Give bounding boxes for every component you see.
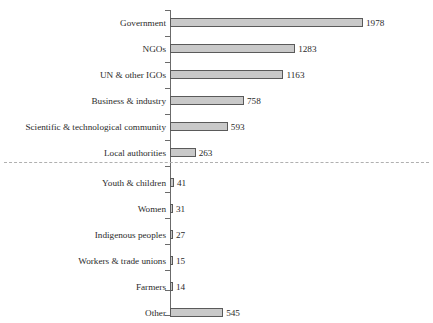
bar [170,308,223,317]
bar-row: Indigenous peoples27 [0,226,433,244]
horizontal-bar-chart: Government1978NGOs1283UN & other IGOs116… [0,0,433,323]
bar-value-label: 263 [199,144,213,162]
bar-row: Youth & children41 [0,174,433,192]
bar-row: Other545 [0,304,433,322]
axis-tick [165,244,170,245]
bar-value-label: 1163 [286,66,304,84]
bar [170,282,173,291]
bar-category-label: Local authorities [16,144,166,162]
bar-row: Local authorities263 [0,144,433,162]
bar [170,204,173,213]
bar [170,70,283,79]
bar-category-label: Indigenous peoples [16,226,166,244]
bar-row: Women31 [0,200,433,218]
bar-category-label: Farmers [16,278,166,296]
group-divider [4,162,429,163]
bar-row: Scientific & technological community593 [0,118,433,136]
axis-tick [165,140,170,141]
bar [170,178,174,187]
bar-category-label: Other [16,304,166,322]
axis-tick [165,166,170,167]
bar [170,230,173,239]
bar-category-label: Women [16,200,166,218]
bar-category-label: NGOs [16,40,166,58]
bar-value-label: 41 [177,174,186,192]
axis-tick [165,10,170,11]
axis-tick [165,192,170,193]
bar [170,122,228,131]
bar-category-label: Government [16,14,166,32]
bar-row: Farmers14 [0,278,433,296]
axis-tick [165,36,170,37]
bar-value-label: 758 [247,92,261,110]
bar [170,18,363,27]
bar-row: UN & other IGOs1163 [0,66,433,84]
bar-value-label: 1978 [366,14,384,32]
bar [170,96,244,105]
bar-value-label: 545 [226,304,240,322]
bar-category-label: UN & other IGOs [16,66,166,84]
bar-value-label: 14 [176,278,185,296]
bar-category-label: Youth & children [16,174,166,192]
bar-row: Government1978 [0,14,433,32]
bar-value-label: 15 [176,252,185,270]
axis-tick [165,270,170,271]
plot-area: Government1978NGOs1283UN & other IGOs116… [0,0,433,323]
axis-tick [165,114,170,115]
bar [170,256,173,265]
axis-tick [165,218,170,219]
bar-row: NGOs1283 [0,40,433,58]
bar-value-label: 1283 [298,40,316,58]
bar-row: Business & industry758 [0,92,433,110]
bar [170,148,196,157]
bar-category-label: Business & industry [16,92,166,110]
axis-tick [165,62,170,63]
bar-category-label: Workers & trade unions [16,252,166,270]
bar-value-label: 27 [176,226,185,244]
axis-tick [165,88,170,89]
bar-category-label: Scientific & technological community [16,118,166,136]
bar-row: Workers & trade unions15 [0,252,433,270]
bar-value-label: 31 [176,200,185,218]
bar [170,44,295,53]
bar-value-label: 593 [231,118,245,136]
